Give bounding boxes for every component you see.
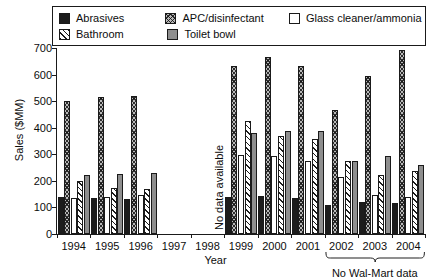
legend-swatch-toilet-bowl-icon	[167, 29, 178, 40]
bar-1995-abrasives	[91, 198, 97, 234]
x-axis-label-2004: 2004	[396, 240, 420, 252]
bar-2002-toilet-bowl	[352, 161, 358, 234]
legend-item-toilet-bowl: Toilet bowl	[167, 29, 293, 40]
x-tickmark-1995	[90, 234, 91, 238]
legend-row-2: Bathroom Toilet bowl	[59, 26, 419, 42]
bar-1995-bathroom	[111, 188, 117, 234]
bar-group-2002	[325, 48, 357, 234]
bar-2002-bathroom	[345, 161, 351, 234]
bar-1999-bathroom	[245, 121, 251, 234]
no-walmart-data-note: No Wal-Mart data	[305, 267, 431, 279]
bar-1994-bathroom	[77, 181, 83, 234]
x-tickmark-2004	[392, 234, 393, 238]
bar-1994-glass-cleaner-ammonia	[71, 198, 77, 234]
bar-2001-glass-cleaner-ammonia	[305, 161, 311, 234]
bar-2003-glass-cleaner-ammonia	[372, 195, 378, 234]
bar-group-1995	[91, 48, 123, 234]
bar-2001-toilet-bowl	[318, 131, 324, 234]
bar-group-2000	[258, 48, 290, 234]
x-axis-label-1998: 1998	[195, 240, 219, 252]
y-axis-tick-500: 500	[22, 96, 52, 107]
bar-group-1997	[158, 48, 190, 234]
bar-1995-apc-disinfectant	[98, 97, 104, 234]
bar-1996-abrasives	[124, 199, 130, 234]
bar-2000-toilet-bowl	[285, 131, 291, 234]
bar-1996-bathroom	[144, 189, 150, 234]
x-axis-label-1996: 1996	[128, 240, 152, 252]
bar-1994-toilet-bowl	[84, 175, 90, 234]
y-axis-tick-300: 300	[22, 149, 52, 160]
x-tickmark-1997	[157, 234, 158, 238]
y-axis-tick-labels: 7006005004003002001000	[22, 48, 52, 234]
y-tickmark-100	[52, 207, 56, 208]
bar-group-1999	[225, 48, 257, 234]
x-axis-label-2003: 2003	[363, 240, 387, 252]
bar-2003-bathroom	[378, 175, 384, 234]
bar-2000-abrasives	[258, 196, 264, 234]
bar-2003-toilet-bowl	[385, 156, 391, 234]
bar-1996-toilet-bowl	[151, 173, 157, 234]
bar-1999-glass-cleaner-ammonia	[238, 155, 244, 234]
x-axis-label-1994: 1994	[61, 240, 85, 252]
x-axis-line	[56, 234, 425, 235]
x-axis-label-2000: 2000	[262, 240, 286, 252]
legend-swatch-abrasives-icon	[59, 13, 70, 24]
bar-2002-apc-disinfectant	[332, 110, 338, 234]
legend-item-bathroom: Bathroom	[59, 29, 167, 40]
legend-item-abrasives: Abrasives	[59, 13, 165, 24]
legend-label-toilet-bowl: Toilet bowl	[184, 29, 235, 40]
bar-2004-toilet-bowl	[418, 165, 424, 234]
bar-1996-apc-disinfectant	[131, 96, 137, 234]
bar-2004-abrasives	[392, 203, 398, 234]
bar-2004-apc-disinfectant	[399, 50, 405, 234]
y-tickmark-600	[52, 75, 56, 76]
y-tickmark-500	[52, 101, 56, 102]
x-tickmark-1998	[191, 234, 192, 238]
bar-2002-glass-cleaner-ammonia	[338, 177, 344, 234]
bar-2000-glass-cleaner-ammonia	[271, 156, 277, 234]
legend-swatch-bathroom-icon	[59, 29, 70, 40]
x-axis-label-1995: 1995	[95, 240, 119, 252]
bar-2003-abrasives	[359, 202, 365, 234]
bar-1996-glass-cleaner-ammonia	[138, 195, 144, 234]
y-tickmark-300	[52, 154, 56, 155]
bar-group-2001	[292, 48, 324, 234]
bar-series-container	[57, 48, 425, 234]
x-tickmark-1996	[124, 234, 125, 238]
x-tickmark-2002	[325, 234, 326, 238]
bar-1999-abrasives	[225, 197, 231, 234]
bar-2001-abrasives	[292, 198, 298, 234]
bar-1999-apc-disinfectant	[231, 66, 237, 234]
bar-1994-apc-disinfectant	[64, 101, 70, 234]
y-tickmark-400	[52, 128, 56, 129]
bar-group-1994	[58, 48, 90, 234]
x-tickmark-1994	[57, 234, 58, 238]
legend-item-glass-cleaner: Glass cleaner/ammonia	[289, 13, 419, 24]
y-axis-tick-700: 700	[22, 43, 52, 54]
y-axis-tick-0: 0	[22, 229, 52, 240]
bar-2000-apc-disinfectant	[265, 57, 271, 234]
bar-1999-toilet-bowl	[251, 133, 257, 235]
chart-legend: Abrasives APC/disinfectant Glass cleaner…	[52, 6, 426, 46]
y-axis-tick-100: 100	[22, 202, 52, 213]
bar-2004-bathroom	[412, 171, 418, 235]
x-tickmark-2000	[258, 234, 259, 238]
bar-group-2004	[392, 48, 424, 234]
bar-2002-abrasives	[325, 205, 331, 234]
legend-row-1: Abrasives APC/disinfectant Glass cleaner…	[59, 10, 419, 26]
bar-2000-bathroom	[278, 136, 284, 234]
bar-2003-apc-disinfectant	[365, 76, 371, 234]
legend-item-apc-disinfectant: APC/disinfectant	[165, 13, 289, 24]
y-tickmark-700	[52, 48, 56, 49]
x-axis-label-2001: 2001	[296, 240, 320, 252]
bar-group-1996	[124, 48, 156, 234]
legend-label-bathroom: Bathroom	[76, 29, 124, 40]
y-axis-tick-200: 200	[22, 175, 52, 186]
y-axis-tick-600: 600	[22, 69, 52, 80]
x-tickmark-2003	[358, 234, 359, 238]
x-axis-label-1997: 1997	[162, 240, 186, 252]
legend-swatch-apc-disinfectant-icon	[165, 13, 176, 24]
bar-group-2003	[359, 48, 391, 234]
x-axis-label-1999: 1999	[229, 240, 253, 252]
legend-label-glass-cleaner: Glass cleaner/ammonia	[306, 13, 422, 24]
